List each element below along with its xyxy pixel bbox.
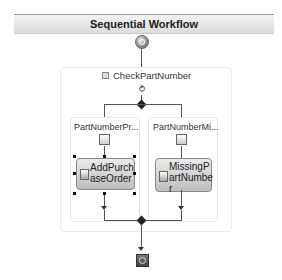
selection-handle[interactable] bbox=[73, 155, 76, 158]
workflow-start-icon[interactable] bbox=[135, 35, 149, 49]
workflow-title-bar: Sequential Workflow bbox=[14, 14, 274, 33]
ifelse-title: CheckPartNumber bbox=[113, 70, 191, 81]
selection-handle[interactable] bbox=[133, 155, 136, 158]
branch-condition-icon bbox=[99, 134, 110, 145]
activity-label-line3: r bbox=[169, 183, 213, 194]
connector-line bbox=[141, 224, 142, 248]
connector-line bbox=[181, 190, 182, 207]
activity-addpurchaseorder[interactable]: AddPurch aseOrder bbox=[76, 158, 135, 190]
workflow-title: Sequential Workflow bbox=[90, 18, 198, 30]
code-activity-icon bbox=[159, 171, 168, 182]
activity-label-line1: AddPurch bbox=[90, 162, 134, 173]
collapse-icon[interactable] bbox=[102, 72, 109, 79]
selection-handle[interactable] bbox=[103, 155, 106, 158]
connector-line bbox=[181, 210, 182, 221]
selection-handle[interactable] bbox=[133, 192, 136, 195]
workflow-end-icon[interactable] bbox=[136, 254, 149, 267]
selection-handle[interactable] bbox=[73, 172, 76, 175]
branch-title: PartNumberMi... bbox=[153, 122, 219, 132]
activity-label-line2: aseOrder bbox=[90, 173, 134, 184]
connector-line bbox=[104, 104, 105, 117]
activity-label-line1: MissingP bbox=[169, 161, 213, 172]
activity-label-line2: artNumbe bbox=[169, 172, 213, 183]
arrow-down-icon bbox=[138, 247, 144, 251]
selection-handle[interactable] bbox=[133, 172, 136, 175]
branch-title: PartNumberPr... bbox=[74, 122, 139, 132]
branch-split-line bbox=[104, 104, 181, 105]
activity-missingpartnumber[interactable]: MissingP artNumbe r bbox=[155, 158, 212, 192]
branch-condition-icon bbox=[176, 134, 187, 145]
connector-line bbox=[181, 146, 182, 158]
condition-icon: ⥁ bbox=[137, 84, 147, 94]
code-activity-icon bbox=[80, 169, 89, 180]
connector-line bbox=[141, 48, 142, 67]
selection-handle[interactable] bbox=[73, 192, 76, 195]
connector-line bbox=[181, 104, 182, 117]
